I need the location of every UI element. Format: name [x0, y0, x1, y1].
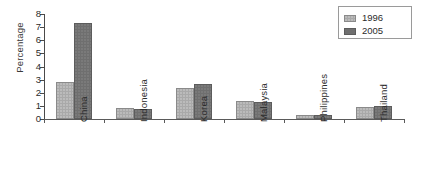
y-tick-label: 0 — [36, 113, 41, 124]
legend-item-2005: 2005 — [344, 25, 383, 37]
y-tick-label: 5 — [36, 47, 41, 58]
x-tick-mark — [104, 119, 105, 123]
bar — [116, 108, 134, 119]
y-tick-label: 8 — [36, 8, 41, 19]
x-tick-mark — [344, 119, 345, 123]
y-tick-label: 2 — [36, 87, 41, 98]
x-category-label: Indonesia — [138, 79, 149, 122]
legend-swatch-2005 — [344, 28, 356, 35]
y-tick-label: 6 — [36, 34, 41, 45]
bar — [296, 115, 314, 119]
x-tick-mark — [404, 119, 405, 123]
y-tick-label: 4 — [36, 61, 41, 72]
legend-item-1996: 1996 — [344, 12, 383, 24]
legend: 1996 2005 — [338, 6, 412, 39]
x-tick-mark — [164, 119, 165, 123]
y-tick-label: 1 — [36, 100, 41, 111]
x-tick-mark — [284, 119, 285, 123]
bar — [356, 107, 374, 119]
y-axis-label: Percentage — [14, 3, 25, 93]
bar — [236, 101, 254, 119]
x-tick-mark — [224, 119, 225, 123]
x-category-label: China — [78, 96, 89, 122]
x-tick-mark — [44, 119, 45, 123]
legend-label-2005: 2005 — [362, 26, 383, 36]
legend-label-1996: 1996 — [362, 13, 383, 23]
bar — [176, 88, 194, 120]
y-tick-label: 7 — [36, 21, 41, 32]
bar — [56, 82, 74, 119]
y-tick-label: 3 — [36, 74, 41, 85]
x-category-label: Korea — [198, 96, 209, 122]
bar-chart: Percentage 012345678 ChinaIndonesiaKorea… — [0, 0, 421, 185]
x-category-label: Malaysia — [258, 83, 269, 122]
x-category-label: Thailand — [378, 84, 389, 122]
legend-swatch-1996 — [344, 15, 356, 22]
x-category-label: Philippines — [318, 74, 329, 122]
